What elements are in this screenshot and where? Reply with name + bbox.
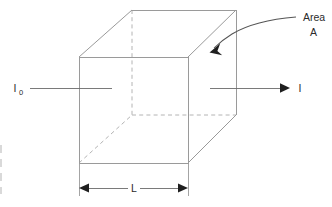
area-label: Area A (303, 11, 325, 38)
cube-top-left-diagonal (79, 10, 132, 57)
cube-top-right-diagonal (188, 10, 236, 57)
dimension-arrowhead-right (178, 183, 188, 192)
area-callout-arrowhead (210, 44, 223, 56)
dimension-arrowhead-left (79, 183, 89, 192)
cube-bottom-right-diagonal (188, 115, 236, 163)
area-label-line1: Area (303, 11, 325, 23)
incident-intensity-subscript: 0 (19, 88, 23, 97)
incident-intensity-label: I 0 (14, 82, 24, 97)
transmitted-intensity-label: I (299, 82, 302, 94)
cube-front-face (79, 57, 188, 163)
area-callout-curve (214, 17, 296, 48)
length-label: L (131, 182, 137, 194)
transmitted-beam-group (210, 83, 290, 93)
figure-root: I 0 I L Area A (0, 0, 332, 207)
hidden-edge-bottom-left-diagonal (79, 115, 132, 163)
page-edge-artifacts (0, 145, 2, 194)
absorption-cube-diagram: I 0 I L Area A (0, 0, 332, 207)
area-label-line2: A (310, 26, 317, 38)
incident-intensity-base: I (14, 82, 17, 94)
cube-visible-edges (79, 10, 236, 163)
transmitted-ray-arrowhead (280, 83, 290, 93)
